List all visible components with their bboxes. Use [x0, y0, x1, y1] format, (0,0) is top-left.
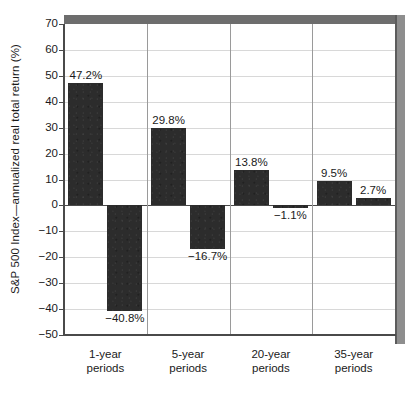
x-axis-category-label-line2: periods [64, 361, 147, 375]
y-axis-tick-label: −50 [24, 329, 58, 341]
y-axis-tick-label: 20 [24, 148, 58, 160]
group-separator-line [312, 24, 313, 335]
x-axis-category-label-line2: periods [230, 361, 313, 375]
y-axis-tick-mark [59, 180, 64, 181]
bar[interactable] [273, 205, 308, 208]
y-axis-title-container: S&P 500 Index—annualized real total retu… [0, 0, 22, 350]
bar-value-label: 29.8% [139, 115, 198, 127]
bar-value-label: 47.2% [56, 70, 115, 82]
x-axis-category-label-line1: 1-year [64, 347, 147, 361]
y-axis-tick-label: 0 [24, 199, 58, 211]
y-axis-tick-label: −10 [24, 225, 58, 237]
group-separator-line [230, 24, 231, 335]
y-axis-tick-mark [59, 205, 64, 206]
x-axis-category-label-line1: 5-year [147, 347, 230, 361]
y-axis-tick-mark [59, 50, 64, 51]
bar[interactable] [234, 170, 269, 206]
bar-value-label: 13.8% [222, 157, 281, 169]
x-axis-category-label-line1: 35-year [312, 347, 395, 361]
y-axis-tick-mark [59, 309, 64, 310]
y-axis-tick-mark [59, 128, 64, 129]
x-axis-category-label: 35-yearperiods [312, 347, 395, 375]
bar[interactable] [68, 83, 103, 205]
y-axis-tick-mark [59, 76, 64, 77]
y-axis-tick-mark [59, 283, 64, 284]
x-axis-category-label-line2: periods [312, 361, 395, 375]
x-axis-category-label: 1-yearperiods [64, 347, 147, 375]
bar-value-label: −40.8% [95, 313, 154, 325]
y-axis-tick-mark [59, 335, 64, 336]
y-axis-tick-label: 70 [24, 18, 58, 30]
y-axis-tick-label: 60 [24, 44, 58, 56]
bar[interactable] [107, 205, 142, 311]
x-axis-category-label: 20-yearperiods [230, 347, 313, 375]
y-axis-tick-label: 10 [24, 174, 58, 186]
y-axis-tick-mark [59, 257, 64, 258]
y-axis-tick-label: 40 [24, 96, 58, 108]
bar[interactable] [151, 128, 186, 205]
bar-value-label: −1.1% [261, 210, 320, 222]
y-axis-tick-labels: 706050403020100−10−20−30−40−50 [24, 0, 58, 395]
bar[interactable] [356, 198, 391, 205]
bar-value-label: −16.7% [178, 251, 237, 263]
chart-figure: S&P 500 Index—annualized real total retu… [0, 0, 417, 395]
y-axis-tick-mark [59, 24, 64, 25]
x-axis-line [63, 334, 396, 336]
y-axis-tick-mark [59, 231, 64, 232]
y-axis-tick-label: −20 [24, 251, 58, 263]
group-separator-line [147, 24, 148, 335]
y-axis-title: S&P 500 Index—annualized real total retu… [9, 4, 21, 334]
y-axis-tick-label: 50 [24, 70, 58, 82]
x-axis-category-label-line1: 20-year [230, 347, 313, 361]
y-axis-tick-label: −30 [24, 277, 58, 289]
y-axis-tick-mark [59, 102, 64, 103]
y-axis-tick-mark [59, 154, 64, 155]
x-axis-category-label-line2: periods [147, 361, 230, 375]
y-axis-tick-label: 30 [24, 122, 58, 134]
plot-area: 47.2%−40.8%29.8%−16.7%13.8%−1.1%9.5%2.7% [64, 24, 395, 335]
bar-value-label: 2.7% [344, 185, 403, 197]
plot-frame-right-edge [395, 15, 397, 344]
x-axis-category-label: 5-yearperiods [147, 347, 230, 375]
y-axis-tick-label: −40 [24, 303, 58, 315]
plot-frame-top-band [64, 15, 405, 24]
bar-value-label: 9.5% [305, 168, 364, 180]
bar[interactable] [190, 205, 225, 248]
